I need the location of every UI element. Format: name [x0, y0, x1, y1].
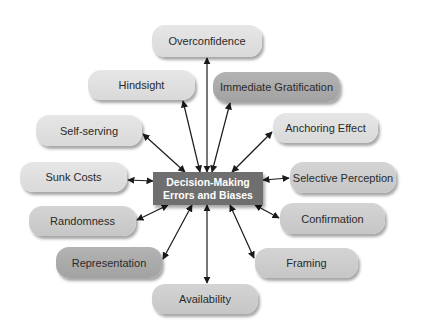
double-arrow-randomness [137, 205, 168, 220]
bias-node-representation: Representation [56, 247, 162, 278]
bias-label: Representation [72, 257, 147, 269]
bias-label: Hindsight [119, 79, 165, 91]
bias-node-immediate-gratification: Immediate Gratification [213, 72, 340, 102]
bias-node-hindsight: Hindsight [88, 70, 195, 100]
bias-label: Selective Perception [293, 172, 393, 184]
bias-label: Self-serving [60, 125, 118, 137]
double-arrow-sunk-costs [128, 180, 153, 181]
bias-node-selective-perception: Selective Perception [290, 162, 396, 193]
bias-node-confirmation: Confirmation [280, 203, 385, 234]
double-arrow-selective-perception [263, 178, 289, 180]
bias-label: Anchoring Effect [285, 122, 366, 134]
double-arrow-framing [230, 205, 254, 258]
central-topic-line-1: Decision-Making [166, 176, 249, 189]
central-topic-box: Decision-Making Errors and Biases [153, 172, 263, 205]
bias-label: Overconfidence [168, 35, 245, 47]
double-arrow-confirmation [255, 205, 279, 218]
double-arrow-anchoring-effect [232, 132, 272, 172]
diagram-canvas: OverconfidenceHindsightImmediate Gratifi… [0, 0, 421, 336]
bias-node-availability: Availability [152, 284, 258, 314]
bias-label: Availability [179, 293, 231, 305]
bias-label: Framing [286, 257, 326, 269]
central-topic-line-2: Errors and Biases [163, 189, 253, 202]
bias-node-sunk-costs: Sunk Costs [20, 162, 127, 192]
bias-node-framing: Framing [255, 248, 358, 278]
bias-node-randomness: Randomness [29, 206, 136, 236]
bias-node-anchoring-effect: Anchoring Effect [273, 113, 378, 143]
double-arrow-hindsight [183, 101, 200, 172]
bias-label: Immediate Gratification [220, 81, 333, 93]
double-arrow-self-serving [143, 134, 185, 172]
bias-node-overconfidence: Overconfidence [152, 25, 262, 57]
double-arrow-immediate-gratification [212, 103, 230, 172]
bias-label: Sunk Costs [45, 171, 101, 183]
double-arrow-representation [163, 205, 192, 259]
bias-label: Confirmation [301, 213, 363, 225]
bias-node-self-serving: Self-serving [36, 115, 142, 146]
bias-label: Randomness [50, 215, 115, 227]
